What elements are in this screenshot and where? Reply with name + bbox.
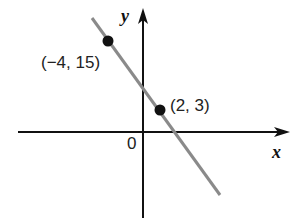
coordinate-plane [0, 0, 298, 222]
point2-label: (2, 3) [170, 96, 210, 116]
x-axis-label: x [272, 142, 281, 163]
point-2-3 [155, 105, 166, 116]
origin-label: 0 [127, 134, 136, 154]
point1-label: (−4, 15) [41, 53, 100, 73]
point-neg4-15 [103, 36, 114, 47]
y-axis-label: y [121, 6, 129, 27]
